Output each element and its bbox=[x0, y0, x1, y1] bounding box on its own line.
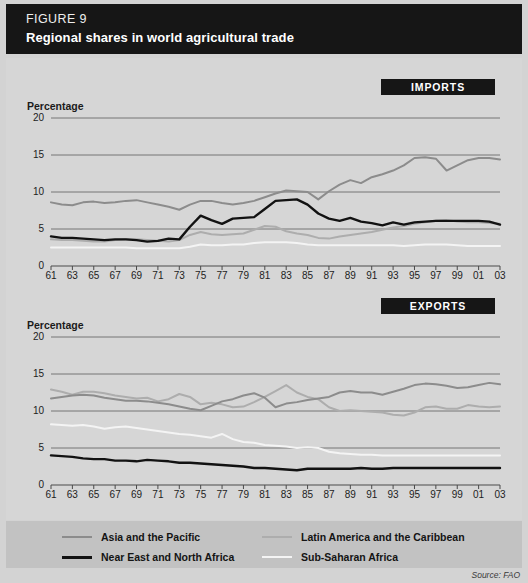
exports-chart bbox=[51, 337, 500, 485]
x-tick-label: 83 bbox=[281, 270, 292, 281]
y-tick-label: 10 bbox=[20, 406, 44, 416]
x-tick-label: 95 bbox=[409, 270, 420, 281]
exports-plot-area bbox=[51, 337, 500, 485]
legend-swatch-latin-america-and-the-caribbean bbox=[262, 536, 292, 538]
x-tick-label: 69 bbox=[131, 489, 142, 500]
x-tick-label: 91 bbox=[366, 489, 377, 500]
x-tick-label: 97 bbox=[430, 489, 441, 500]
x-tick-label: 93 bbox=[388, 270, 399, 281]
x-tick-label: 75 bbox=[195, 270, 206, 281]
x-tick-label: 87 bbox=[323, 489, 334, 500]
y-tick-label: 10 bbox=[20, 187, 44, 197]
y-tick-label: 20 bbox=[20, 113, 44, 123]
legend-label-sub-saharan-africa: Sub-Saharan Africa bbox=[301, 551, 398, 563]
x-tick-label: 03 bbox=[494, 489, 505, 500]
x-tick-label: 71 bbox=[152, 489, 163, 500]
figure-number: FIGURE 9 bbox=[26, 11, 522, 27]
x-tick-label: 65 bbox=[88, 270, 99, 281]
x-tick-label: 85 bbox=[302, 270, 313, 281]
x-tick-label: 85 bbox=[302, 489, 313, 500]
legend-item-latin-america-and-the-caribbean: Latin America and the Caribbean bbox=[262, 531, 465, 543]
source-note: Source: FAO bbox=[472, 570, 521, 580]
legend-label-latin-america-and-the-caribbean: Latin America and the Caribbean bbox=[301, 531, 465, 543]
x-tick-label: 89 bbox=[345, 270, 356, 281]
x-tick-label: 99 bbox=[452, 270, 463, 281]
legend-item-near-east-and-north-africa: Near East and North Africa bbox=[62, 551, 234, 563]
x-tick-label: 91 bbox=[366, 270, 377, 281]
imports-chart bbox=[51, 118, 500, 266]
x-tick-label: 67 bbox=[110, 489, 121, 500]
x-tick-label: 63 bbox=[67, 489, 78, 500]
series-line-near-east-and-north-africa bbox=[51, 199, 500, 241]
imports-plot-area bbox=[51, 118, 500, 266]
x-tick-label: 67 bbox=[110, 270, 121, 281]
series-line-near-east-and-north-africa bbox=[51, 455, 500, 470]
x-tick-label: 83 bbox=[281, 489, 292, 500]
x-tick-label: 63 bbox=[67, 270, 78, 281]
x-tick-label: 79 bbox=[238, 270, 249, 281]
exports-badge: EXPORTS bbox=[381, 298, 495, 314]
x-tick-label: 93 bbox=[388, 489, 399, 500]
x-tick-label: 77 bbox=[216, 270, 227, 281]
series-line-sub-saharan-africa bbox=[51, 424, 500, 455]
y-tick-label: 20 bbox=[20, 332, 44, 342]
imports-y-axis-title: Percentage bbox=[27, 100, 84, 112]
legend-label-near-east-and-north-africa: Near East and North Africa bbox=[101, 551, 234, 563]
x-tick-label: 61 bbox=[45, 489, 56, 500]
y-tick-label: 5 bbox=[20, 224, 44, 234]
x-tick-label: 01 bbox=[473, 489, 484, 500]
series-line-sub-saharan-africa bbox=[51, 242, 500, 248]
x-tick-label: 95 bbox=[409, 489, 420, 500]
legend-swatch-asia-and-the-pacific bbox=[62, 536, 92, 538]
y-tick-label: 15 bbox=[20, 369, 44, 379]
x-tick-label: 79 bbox=[238, 489, 249, 500]
legend-swatch-near-east-and-north-africa bbox=[62, 556, 92, 559]
figure-container: FIGURE 9 Regional shares in world agricu… bbox=[0, 0, 528, 583]
exports-x-tick-labels: 6163656769717375777981838587899193959799… bbox=[51, 489, 500, 505]
y-tick-label: 5 bbox=[20, 443, 44, 453]
x-tick-label: 03 bbox=[494, 270, 505, 281]
x-tick-label: 81 bbox=[259, 270, 270, 281]
x-tick-label: 77 bbox=[216, 489, 227, 500]
x-tick-label: 73 bbox=[174, 489, 185, 500]
exports-y-axis-title: Percentage bbox=[27, 319, 84, 331]
legend-item-sub-saharan-africa: Sub-Saharan Africa bbox=[262, 551, 398, 563]
x-tick-label: 73 bbox=[174, 270, 185, 281]
y-tick-label: 15 bbox=[20, 150, 44, 160]
x-tick-label: 97 bbox=[430, 270, 441, 281]
x-tick-label: 89 bbox=[345, 489, 356, 500]
legend-swatch-sub-saharan-africa bbox=[262, 556, 292, 558]
x-tick-label: 61 bbox=[45, 270, 56, 281]
x-tick-label: 69 bbox=[131, 270, 142, 281]
figure-title: Regional shares in world agricultural tr… bbox=[26, 29, 522, 47]
x-tick-label: 75 bbox=[195, 489, 206, 500]
imports-x-tick-labels: 6163656769717375777981838587899193959799… bbox=[51, 270, 500, 286]
y-tick-label: 0 bbox=[20, 480, 44, 490]
figure-header: FIGURE 9 Regional shares in world agricu… bbox=[6, 4, 522, 54]
x-tick-label: 71 bbox=[152, 270, 163, 281]
legend-label-asia-and-the-pacific: Asia and the Pacific bbox=[101, 531, 200, 543]
x-tick-label: 81 bbox=[259, 489, 270, 500]
x-tick-label: 01 bbox=[473, 270, 484, 281]
imports-badge: IMPORTS bbox=[381, 79, 495, 95]
legend-item-asia-and-the-pacific: Asia and the Pacific bbox=[62, 531, 200, 543]
x-tick-label: 99 bbox=[452, 489, 463, 500]
y-tick-label: 0 bbox=[20, 261, 44, 271]
x-tick-label: 87 bbox=[323, 270, 334, 281]
chart-legend: Asia and the Pacific Near East and North… bbox=[6, 521, 522, 568]
x-tick-label: 65 bbox=[88, 489, 99, 500]
